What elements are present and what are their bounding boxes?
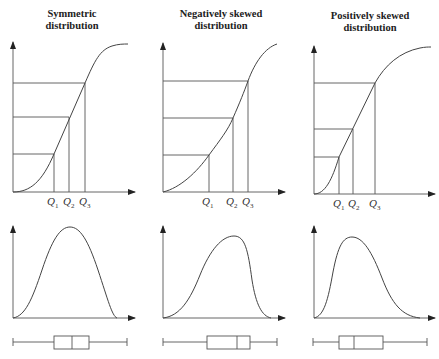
q-sub: 2 [356, 204, 360, 212]
q-sub: 2 [234, 202, 238, 210]
q-letter: Q [202, 195, 210, 207]
q-letter: Q [369, 197, 377, 209]
q1-label-negative: Q1 [202, 195, 213, 210]
q-letter: Q [333, 197, 341, 209]
q-letter: Q [242, 195, 250, 207]
q-letter: Q [226, 195, 234, 207]
q-letter: Q [47, 195, 55, 207]
negative-density [163, 226, 285, 318]
positive-density [314, 226, 435, 318]
q3-label-negative: Q3 [242, 195, 253, 210]
q2-label-symmetric: Q2 [63, 195, 74, 210]
q-letter: Q [63, 195, 71, 207]
q1-label-symmetric: Q1 [47, 195, 58, 210]
negative-cdf [163, 43, 285, 192]
positive-boxplot [313, 336, 427, 349]
q-sub: 3 [250, 202, 254, 210]
symmetric-boxplot [13, 336, 127, 349]
q3-label-positive: Q3 [369, 197, 380, 212]
distribution-diagram [0, 0, 439, 359]
negative-boxplot [163, 336, 277, 349]
q-sub: 1 [55, 202, 59, 210]
q-letter: Q [348, 197, 356, 209]
symmetric-cdf [13, 42, 135, 192]
q-sub: 1 [210, 202, 214, 210]
q-sub: 2 [71, 202, 75, 210]
q-sub: 3 [377, 204, 381, 212]
positive-cdf [314, 46, 435, 194]
q3-label-symmetric: Q3 [79, 195, 90, 210]
q1-label-positive: Q1 [333, 197, 344, 212]
q-sub: 1 [341, 204, 345, 212]
q-letter: Q [79, 195, 87, 207]
q-sub: 3 [87, 202, 91, 210]
q2-label-positive: Q2 [348, 197, 359, 212]
q2-label-negative: Q2 [226, 195, 237, 210]
symmetric-density [13, 226, 135, 318]
